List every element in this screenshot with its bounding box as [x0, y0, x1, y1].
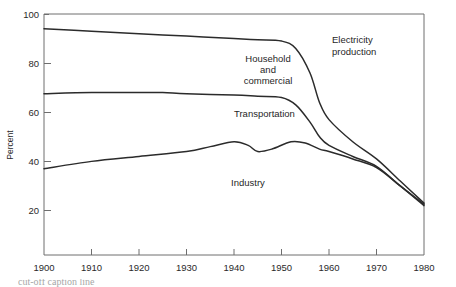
- y-tick-label-80: 80: [28, 58, 39, 69]
- chart-figure: 100 80 60 40 20 Percent 1900 1910 1920 1…: [0, 0, 456, 287]
- y-axis-tick-labels: 100 80 60 40 20: [23, 9, 39, 216]
- x-tick-label-1930: 1930: [176, 262, 197, 273]
- series-annotations: Electricity production Household and com…: [231, 34, 376, 188]
- y-axis-ticks: [44, 15, 51, 211]
- annotation-industry: Industry: [231, 177, 265, 188]
- x-tick-label-1920: 1920: [128, 262, 149, 273]
- percent-line-chart: 100 80 60 40 20 Percent 1900 1910 1920 1…: [0, 0, 456, 287]
- y-axis-title: Percent: [5, 130, 15, 160]
- x-tick-label-1940: 1940: [223, 262, 244, 273]
- y-tick-label-40: 40: [28, 156, 39, 167]
- caption-text: cut-off caption line: [18, 279, 94, 287]
- x-tick-label-1910: 1910: [81, 262, 102, 273]
- annotation-household-line2: and: [260, 64, 276, 75]
- x-tick-label-1900: 1900: [33, 262, 54, 273]
- caption-strip: cut-off caption line: [0, 279, 456, 287]
- annotation-electricity-production-line2: production: [332, 46, 376, 57]
- annotation-household-line1: Household: [245, 53, 290, 64]
- y-tick-label-20: 20: [28, 205, 39, 216]
- x-axis-ticks: [92, 249, 377, 255]
- x-tick-label-1970: 1970: [366, 262, 387, 273]
- x-axis-tick-labels: 1900 1910 1920 1930 1940 1950 1960 1970 …: [33, 262, 434, 273]
- x-tick-label-1960: 1960: [318, 262, 339, 273]
- x-tick-label-1980: 1980: [413, 262, 434, 273]
- x-tick-label-1950: 1950: [271, 262, 292, 273]
- annotation-household-line3: commercial: [244, 75, 293, 86]
- y-tick-label-100: 100: [23, 9, 39, 20]
- annotation-electricity-production-line1: Electricity: [332, 34, 373, 45]
- y-tick-label-60: 60: [28, 107, 39, 118]
- series-line-transportation: [44, 141, 424, 205]
- annotation-transportation: Transportation: [234, 108, 295, 119]
